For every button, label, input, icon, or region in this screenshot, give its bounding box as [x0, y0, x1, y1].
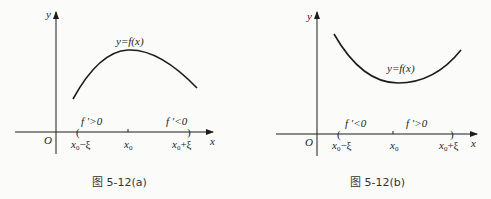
figure-b: y x O y=f(x) f ′<0 f ′>0 ( ) x0−ξ x0 x0+…: [276, 10, 477, 189]
figure-b-curve-label: y=f(x): [386, 62, 415, 75]
figure-a-tick-center-label: x0: [123, 138, 133, 152]
figure-a-left-interval-label: f ′>0: [81, 115, 103, 127]
figure-a-tick-right-label: x0+ξ: [171, 138, 192, 152]
figure-b-y-axis-label: y: [306, 10, 312, 22]
figure-a-caption: 图 5-12(a): [92, 176, 147, 189]
figure-a-y-axis-label: y: [45, 8, 51, 20]
figure-a-origin-label: O: [44, 134, 52, 146]
figure-b-tick-right-label: x0+ξ: [438, 139, 459, 153]
figure-canvas: y x O y=f(x) f ′>0 f ′<0 ( ) x0−ξ x0 x0+…: [0, 0, 491, 199]
figure-b-curve: [334, 34, 461, 83]
figure-a-curve-label: y=f(x): [115, 35, 144, 48]
figure-b-right-interval-label: f ′>0: [406, 117, 428, 129]
figure-b-left-interval-label: f ′<0: [345, 117, 367, 129]
figure-b-origin-label: O: [305, 136, 313, 148]
figure-a: y x O y=f(x) f ′>0 f ′<0 ( ) x0−ξ x0 x0+…: [15, 8, 215, 189]
figure-b-tick-left-label: x0−ξ: [331, 139, 352, 153]
figure-a-tick-left-label: x0−ξ: [70, 138, 91, 152]
figure-a-x-axis-label: x: [209, 135, 215, 147]
figure-b-tick-center-label: x0: [389, 139, 399, 153]
figure-a-right-interval-label: f ′<0: [166, 115, 188, 127]
figure-b-x-axis-label: x: [470, 137, 476, 149]
figure-a-curve: [73, 50, 197, 99]
figure-b-caption: 图 5-12(b): [350, 176, 405, 189]
